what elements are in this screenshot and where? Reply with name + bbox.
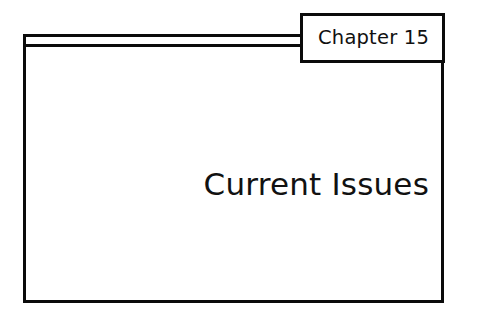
chapter-title: Current Issues: [26, 167, 429, 201]
chapter-strip-divider-line: [23, 44, 303, 47]
chapter-number-tab: Chapter 15: [300, 13, 445, 63]
chapter-top-strip: [26, 37, 303, 44]
chapter-divider-slide: Chapter 15 Current Issues: [0, 0, 481, 325]
chapter-number-label: Chapter 15: [318, 28, 442, 48]
